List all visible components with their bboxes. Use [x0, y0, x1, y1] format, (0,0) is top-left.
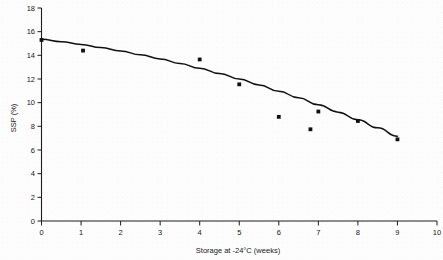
y-axis-tick-label: 16	[27, 27, 35, 36]
data-point-marker	[277, 115, 281, 119]
y-axis: 024681012141618	[27, 4, 42, 226]
chart-figure: 024681012141618 012345678910 Storage at …	[0, 0, 443, 260]
x-axis-tick-label: 7	[316, 228, 320, 237]
y-axis-tick-label: 8	[31, 122, 35, 131]
x-axis-tick-label: 1	[79, 228, 83, 237]
x-axis-tick-label: 0	[39, 228, 43, 237]
y-axis-tick-label: 0	[31, 217, 35, 226]
x-axis-tick-label: 4	[198, 228, 202, 237]
y-axis-tick-label: 12	[27, 75, 35, 84]
y-axis-tick-label: 18	[27, 4, 35, 13]
x-axis-tick-label: 9	[395, 228, 399, 237]
x-axis-tick-label: 6	[277, 228, 281, 237]
data-point-marker	[81, 49, 85, 53]
x-axis-tick-label: 2	[119, 228, 123, 237]
y-axis-title: SSP (%)	[9, 103, 18, 132]
data-point-marker	[309, 127, 313, 131]
data-point-marker	[396, 137, 400, 141]
x-axis-tick-label: 3	[158, 228, 162, 237]
x-axis-tick-label: 10	[433, 228, 441, 237]
y-axis-tick-label: 4	[31, 169, 35, 178]
x-axis: 012345678910	[39, 221, 441, 237]
y-axis-tick-label: 2	[31, 193, 35, 202]
y-axis-tick-label: 14	[27, 51, 35, 60]
x-axis-title: Storage at -24°C (weeks)	[196, 246, 281, 255]
data-point-marker	[237, 82, 241, 86]
x-axis-tick-label: 5	[237, 228, 241, 237]
data-point-marker	[198, 58, 202, 62]
data-point-marker	[316, 110, 320, 114]
y-axis-tick-label: 10	[27, 98, 35, 107]
x-axis-tick-label: 8	[356, 228, 360, 237]
chart-plot-area: 024681012141618 012345678910 Storage at …	[0, 0, 443, 260]
data-series-group	[40, 38, 400, 141]
y-axis-tick-label: 6	[31, 146, 35, 155]
fitted-trend-curve	[42, 39, 398, 136]
